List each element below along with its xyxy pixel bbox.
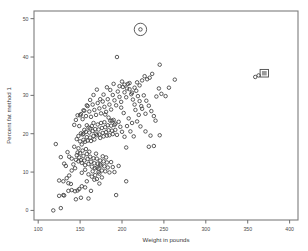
data-point	[129, 130, 133, 134]
data-point	[123, 135, 127, 139]
data-point	[98, 107, 102, 111]
chart-canvas: 10015020025030035040001020304050Weight i…	[0, 0, 308, 251]
data-point	[80, 143, 84, 147]
data-point	[118, 95, 122, 99]
data-point	[85, 180, 89, 184]
data-point	[72, 123, 76, 127]
data-point	[158, 134, 162, 138]
y-axis-tick-label: 40	[23, 54, 29, 60]
data-point	[124, 96, 128, 100]
data-point	[96, 101, 100, 105]
y-axis-title-group: Percent fat method 1	[5, 87, 12, 144]
data-point	[125, 124, 129, 128]
data-point	[93, 173, 97, 177]
data-point	[101, 131, 105, 135]
data-point	[52, 209, 56, 213]
data-point	[94, 152, 98, 156]
data-point	[137, 113, 141, 117]
data-point	[158, 63, 162, 67]
data-point	[115, 133, 119, 137]
data-point	[119, 100, 123, 104]
data-points-group	[52, 28, 261, 213]
data-point	[123, 91, 127, 95]
data-point	[127, 117, 131, 121]
data-point	[93, 138, 97, 142]
data-point	[139, 28, 143, 32]
data-point	[89, 115, 93, 119]
data-point	[144, 112, 148, 116]
data-point	[89, 189, 93, 193]
x-axis-tick-label: 250	[160, 226, 169, 232]
data-point	[108, 171, 112, 175]
data-point	[94, 113, 98, 117]
data-point	[114, 193, 118, 197]
data-point	[138, 99, 142, 103]
data-point	[130, 121, 134, 125]
data-point	[59, 206, 63, 210]
data-point	[133, 103, 137, 107]
data-point	[99, 112, 103, 116]
data-point	[147, 145, 151, 149]
data-point	[124, 180, 128, 184]
x-axis-title: Weight in pounds	[143, 236, 190, 243]
data-point	[118, 84, 122, 88]
data-point	[150, 109, 154, 113]
data-point	[54, 142, 58, 146]
y-axis-tick-label: 20	[23, 131, 29, 137]
data-point	[107, 116, 111, 120]
data-point	[73, 166, 77, 170]
data-point	[88, 98, 92, 102]
data-point	[120, 80, 124, 84]
data-point	[109, 88, 113, 92]
data-point	[103, 105, 107, 109]
data-point	[93, 108, 97, 112]
data-point	[124, 146, 128, 150]
data-point	[254, 75, 258, 79]
data-point	[65, 176, 69, 180]
data-point	[167, 86, 171, 90]
data-point	[111, 93, 115, 97]
data-point	[149, 134, 153, 138]
data-point	[117, 164, 121, 168]
data-point	[105, 86, 109, 90]
data-point	[70, 169, 74, 173]
data-point	[134, 108, 138, 112]
data-point	[113, 99, 117, 103]
data-point	[112, 82, 116, 86]
outlier-box-fill	[262, 71, 267, 75]
x-axis-tick-label: 100	[34, 226, 43, 232]
y-axis-tick-label: 30	[23, 92, 29, 98]
data-point	[136, 94, 140, 98]
data-point	[133, 86, 137, 90]
data-point	[114, 128, 118, 132]
data-point	[109, 160, 113, 164]
data-point	[155, 95, 159, 99]
data-point	[83, 168, 87, 172]
data-point	[88, 110, 92, 114]
data-point	[105, 161, 109, 165]
data-point	[57, 179, 61, 183]
data-point	[84, 114, 88, 118]
data-point	[103, 170, 107, 174]
scatter-plot-figure: 10015020025030035040001020304050Weight i…	[0, 0, 308, 251]
x-axis-tick-label: 350	[243, 226, 252, 232]
data-point	[98, 182, 102, 186]
data-point	[70, 157, 74, 161]
data-point	[139, 125, 143, 128]
data-point	[88, 150, 92, 154]
data-point	[122, 111, 126, 115]
x-axis-tick-label: 300	[201, 226, 210, 232]
data-point	[109, 108, 113, 112]
data-point	[152, 114, 156, 118]
data-point	[72, 145, 76, 149]
data-point	[145, 99, 149, 103]
data-point	[74, 118, 78, 122]
data-point	[150, 72, 154, 76]
data-point	[152, 144, 156, 148]
data-point	[135, 120, 139, 124]
data-point	[116, 90, 120, 94]
data-point	[91, 103, 95, 107]
data-point	[138, 84, 142, 88]
data-point	[104, 156, 108, 160]
data-point	[80, 171, 84, 175]
